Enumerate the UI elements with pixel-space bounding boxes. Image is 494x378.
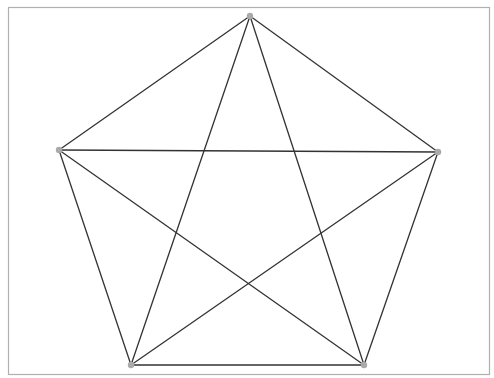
edge-left-right: [59, 150, 438, 152]
edge-top-bottom-left: [131, 16, 250, 365]
edges-group: [59, 16, 438, 365]
node-top: [247, 13, 253, 19]
node-left: [56, 147, 62, 153]
edge-top-right: [250, 16, 438, 152]
edge-top-bottom-right: [250, 16, 364, 365]
edge-right-bottom-left: [131, 152, 438, 365]
diagram-frame: [9, 8, 490, 375]
node-bottom-left: [128, 362, 134, 368]
node-right: [435, 149, 441, 155]
edge-right-bottom-right: [364, 152, 438, 365]
edge-top-left: [59, 16, 250, 150]
node-bottom-right: [361, 362, 367, 368]
edge-left-bottom-left: [59, 150, 131, 365]
edge-left-bottom-right: [59, 150, 364, 365]
graph-canvas: [0, 0, 494, 378]
